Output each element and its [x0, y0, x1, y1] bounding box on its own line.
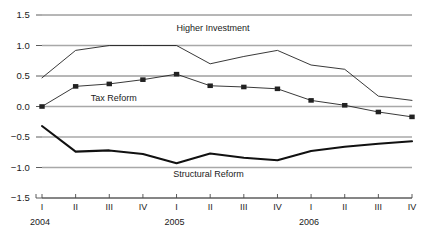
series-marker: [207, 83, 212, 88]
series-marker: [409, 115, 414, 120]
chart-container: 1.51.00.50.0−0.5−1.0−1.5 IIIIIIIVIIIIIII…: [0, 0, 427, 236]
x-axis-tick-label: II: [333, 202, 357, 212]
y-axis-tick-label: −1.5: [0, 192, 30, 203]
y-axis-tick-label: 1.5: [0, 9, 30, 20]
series-marker: [73, 84, 78, 89]
chart-plot-area: [0, 0, 427, 236]
x-axis-tick-label: II: [64, 202, 88, 212]
x-axis-tick-label: I: [165, 202, 189, 212]
y-axis-tick-label: 1.0: [0, 40, 30, 51]
x-axis-tick-label: III: [97, 202, 121, 212]
series-marker: [241, 85, 246, 90]
series-marker: [342, 103, 347, 108]
x-axis-tick-label: III: [232, 202, 256, 212]
y-axis-tick-label: −1.0: [0, 162, 30, 173]
series-marker: [107, 82, 112, 87]
series-annotation-label: Tax Reform: [91, 93, 137, 103]
series-line: [42, 126, 412, 163]
y-axis-tick-label: −0.5: [0, 131, 30, 142]
x-axis-tick-label: IV: [265, 202, 289, 212]
series-marker: [376, 110, 381, 115]
series-marker: [140, 77, 145, 82]
x-axis-tick-label: II: [198, 202, 222, 212]
series-marker: [275, 87, 280, 92]
x-axis-year-label: 2006: [299, 217, 319, 227]
x-axis-tick-label: IV: [131, 202, 155, 212]
series-marker: [39, 104, 44, 109]
series-annotation-label: Structural Reform: [173, 169, 244, 179]
series-marker: [174, 72, 179, 77]
x-axis-tick-label: IV: [400, 202, 424, 212]
series-annotation-label: Higher Investment: [177, 23, 250, 33]
y-axis-tick-label: 0.0: [0, 101, 30, 112]
x-axis-tick-label: III: [366, 202, 390, 212]
x-axis-year-label: 2004: [30, 217, 50, 227]
x-axis-tick-label: I: [299, 202, 323, 212]
x-axis-tick-label: I: [30, 202, 54, 212]
x-axis-year-label: 2005: [165, 217, 185, 227]
series-marker: [308, 98, 313, 103]
y-axis-tick-label: 0.5: [0, 70, 30, 81]
